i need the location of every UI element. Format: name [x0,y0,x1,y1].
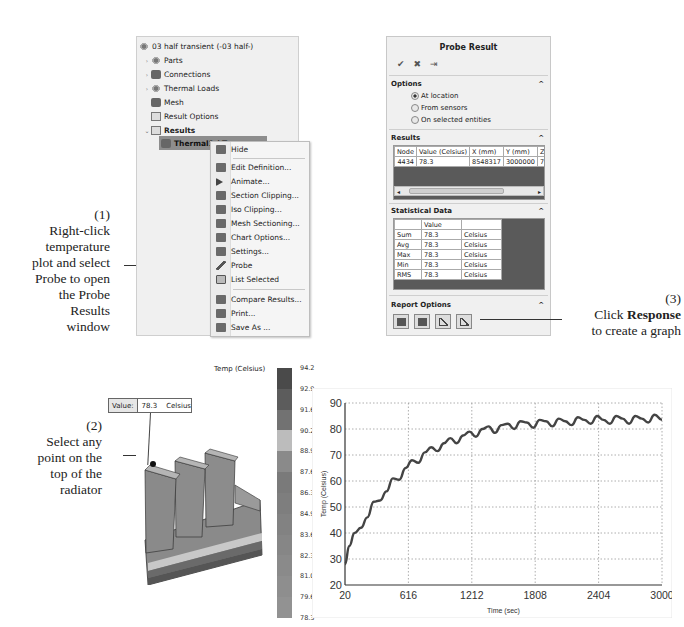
response-chart-svg: 2030405060708090206161212180824043000Tim… [312,388,672,618]
collapse-chevron-icon[interactable]: ^ [538,80,544,88]
y-axis-label: Temp (Celsius) [320,471,328,518]
save-file-button[interactable] [414,314,430,329]
statistical-table: Value Sum78.3Celsius Avg78.3Celsius Max7… [393,218,545,290]
settings-icon [216,247,226,256]
ok-icon[interactable]: ✔ [397,59,405,69]
menu-item-probe[interactable]: Probe [211,259,309,272]
legend-color-band [277,472,292,493]
step2-leader-line [123,455,136,456]
tree-item-parts[interactable]: › Parts [143,53,183,67]
scroll-right-icon[interactable]: ▸ [538,188,541,195]
hide-icon [216,145,226,154]
table-row: Min78.3Celsius [395,260,502,270]
menu-separator [233,289,305,290]
result-options-icon [151,112,161,121]
x-tick-label: 3000 [650,589,672,601]
y-tick-label: 90 [330,397,342,409]
table-row: Max78.3Celsius [395,250,502,260]
x-tick-label: 2404 [587,589,611,601]
radio-from-sensors[interactable]: From sensors [411,104,467,112]
tree-root[interactable]: 03 half transient (-03 half-) [139,39,253,53]
tree-item-results[interactable]: ⌄ Results [143,123,195,137]
table-row: Avg78.3Celsius [395,240,502,250]
expand-icon[interactable]: › [143,57,151,64]
table-row[interactable]: 4434 78.3 8548317 3000000 722332 [395,157,546,167]
legend-color-band [277,555,292,576]
report-options-header[interactable]: Report Options^ [391,301,544,309]
response-graph-icon [460,318,469,326]
print-icon [216,309,226,318]
expand-icon[interactable]: › [143,85,151,92]
panel-title: Probe Result [387,43,550,52]
legend-color-band [277,410,292,431]
radiator-model[interactable] [140,445,270,585]
menu-item-iso-clipping[interactable]: Iso Clipping... [211,203,309,216]
compare-results-icon [216,295,226,304]
tree-item-thermal-loads[interactable]: › Thermal Loads [143,81,219,95]
results-horizontal-scrollbar[interactable]: ◂ ▸ [394,186,544,196]
results-header[interactable]: Results^ [391,134,544,142]
legend-tick-label: 94.2 [300,364,314,372]
menu-item-edit-definition[interactable]: Edit Definition... [211,161,309,174]
scroll-thumb[interactable] [409,188,504,194]
menu-item-section-clipping[interactable]: Section Clipping... [211,189,309,202]
probe-result-panel: Probe Result ✔ ✖ ⇥ Options^ At location … [386,36,551,336]
collapse-chevron-icon[interactable]: ^ [538,301,544,309]
tree-item-result-options[interactable]: Result Options [143,109,219,123]
menu-item-mesh-sectioning[interactable]: Mesh Sectioning... [211,217,309,230]
probe-point-marker [150,461,156,467]
options-header[interactable]: Options^ [391,80,544,88]
step3-leader-line [480,319,562,320]
thermal-loads-icon [151,84,161,93]
annotation-step2: (2) Select any point on the top of the r… [0,418,102,498]
menu-item-chart-options[interactable]: Chart Options... [211,231,309,244]
tree-item-connections[interactable]: › Connections [143,67,210,81]
expand-icon[interactable]: › [143,71,151,78]
y-tick-label: 80 [330,423,342,435]
chart-options-icon [216,233,226,242]
radio-on-selected-entities[interactable]: On selected entities [411,116,491,124]
legend-title: Temp (Celsius) [214,365,265,373]
collapse-chevron-icon[interactable]: ^ [538,207,544,215]
cancel-icon[interactable]: ✖ [414,59,422,69]
save-as-sensor-button[interactable] [393,314,409,329]
menu-item-animate[interactable]: Animate... [211,175,309,188]
animate-icon [216,178,223,186]
x-tick-label: 616 [400,589,418,601]
menu-item-compare-results[interactable]: Compare Results... [211,293,309,306]
results-header-row: Node Value (Celsius) X (mm) Y (mm) Z (mm [395,147,546,157]
mesh-icon [151,98,161,107]
y-tick-label: 70 [330,449,342,461]
list-selected-icon [216,275,226,284]
menu-item-hide[interactable]: Hide [211,143,309,156]
pin-icon[interactable]: ⇥ [430,59,438,69]
collapse-icon[interactable]: ⌄ [143,127,151,134]
tree-item-mesh[interactable]: Mesh [143,95,184,109]
sensor-icon [397,318,406,326]
x-tick-label: 1212 [460,589,484,601]
plot-button[interactable] [435,314,451,329]
radio-at-location[interactable]: At location [411,92,458,100]
thermal-plot-icon [161,139,171,148]
x-tick-label: 1808 [524,589,548,601]
response-button[interactable] [456,314,472,329]
response-chart: 2030405060708090206161212180824043000Tim… [312,388,672,618]
panel-actions: ✔ ✖ ⇥ [397,59,438,69]
y-tick-label: 30 [330,553,342,565]
scroll-left-icon[interactable]: ◂ [397,188,400,195]
save-file-icon [418,318,427,326]
legend-color-band [277,535,292,556]
iso-clipping-icon [216,205,226,214]
menu-item-list-selected[interactable]: List Selected [211,273,309,286]
legend-color-band [277,493,292,514]
menu-item-save-as[interactable]: Save As ... [211,321,309,334]
menu-item-print[interactable]: Print... [211,307,309,320]
plot-icon [439,318,448,326]
statistical-data-header[interactable]: Statistical Data^ [391,207,544,215]
legend-color-band [277,451,292,472]
menu-item-settings[interactable]: Settings... [211,245,309,258]
section-clipping-icon [216,191,226,200]
legend-color-band [277,576,292,597]
collapse-chevron-icon[interactable]: ^ [538,134,544,142]
legend-color-band [277,514,292,535]
